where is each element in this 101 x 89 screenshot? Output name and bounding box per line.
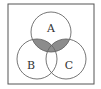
label-c: C (65, 59, 73, 72)
label-b: B (27, 59, 35, 72)
venn-diagram: A B C (0, 0, 101, 89)
label-a: A (46, 22, 56, 35)
